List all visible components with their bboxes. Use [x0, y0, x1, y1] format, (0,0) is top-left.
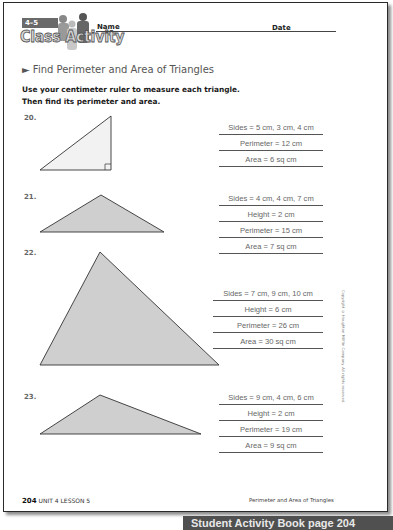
answer-21-sides[interactable]: Sides = 4 cm, 4 cm, 7 cm	[219, 193, 323, 206]
triangle-22	[40, 252, 219, 365]
answer-23-area[interactable]: Area = 9 sq cm	[219, 440, 323, 453]
triangle-20	[40, 116, 111, 170]
triangle-23	[40, 395, 201, 434]
footer-topic: Perimeter and Area of Triangles	[249, 497, 334, 503]
answer-22-sides[interactable]: Sides = 7 cm, 9 cm, 10 cm	[213, 288, 323, 301]
answer-22-perimeter[interactable]: Perimeter = 26 cm	[213, 320, 323, 333]
triangle-21	[40, 195, 164, 232]
problem-number-20: 20.	[24, 114, 36, 122]
answer-21-area[interactable]: Area = 7 sq cm	[219, 241, 323, 254]
answer-23-perimeter[interactable]: Perimeter = 19 cm	[219, 424, 323, 437]
unit-lesson: UNIT 4 LESSON 5	[39, 497, 91, 504]
problem-number-23: 23.	[24, 393, 36, 401]
answer-22-height[interactable]: Height = 6 cm	[213, 304, 323, 317]
answer-20-area[interactable]: Area = 6 sq cm	[219, 154, 323, 167]
page-number: 204	[22, 497, 37, 505]
answer-23-sides[interactable]: Sides = 9 cm, 4 cm, 6 cm	[219, 392, 323, 405]
answer-21-height[interactable]: Height = 2 cm	[219, 209, 323, 222]
answer-23-height[interactable]: Height = 2 cm	[219, 408, 323, 421]
problem-number-21: 21.	[24, 193, 36, 201]
copyright-notice: Copyright © Houghton Mifflin Company. Al…	[341, 290, 345, 403]
footer-left: 204 UNIT 4 LESSON 5	[22, 497, 90, 505]
answer-20-perimeter[interactable]: Perimeter = 12 cm	[219, 138, 323, 151]
problem-number-22: 22.	[24, 249, 36, 257]
answer-20-sides[interactable]: Sides = 5 cm, 3 cm, 4 cm	[219, 122, 323, 135]
student-activity-book-banner: Student Activity Book page 204	[183, 516, 393, 530]
answer-22-area[interactable]: Area = 30 sq cm	[213, 336, 323, 349]
answer-21-perimeter[interactable]: Perimeter = 15 cm	[219, 225, 323, 238]
